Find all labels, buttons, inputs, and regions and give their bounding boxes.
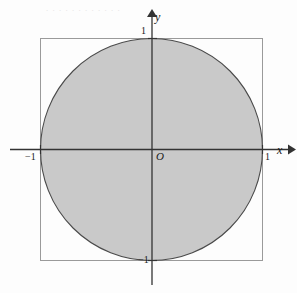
x-axis-arrowhead xyxy=(288,145,296,155)
origin-label: O xyxy=(156,151,164,162)
tick-label-y-negative-one: −1 xyxy=(138,255,149,265)
figure-canvas: . . . . . . . . . . . . y x O 1 −1 −1 1 xyxy=(0,0,297,293)
tick-label-y-positive-one: 1 xyxy=(141,26,146,36)
tick-label-x-positive-one: 1 xyxy=(265,152,270,162)
x-axis-label: x xyxy=(277,144,282,156)
y-axis-label: y xyxy=(155,11,160,23)
diagram-svg xyxy=(0,0,297,293)
page-bleed-text: . . . . . . . . . . . . xyxy=(46,3,121,13)
tick-label-x-negative-one: −1 xyxy=(25,152,36,162)
